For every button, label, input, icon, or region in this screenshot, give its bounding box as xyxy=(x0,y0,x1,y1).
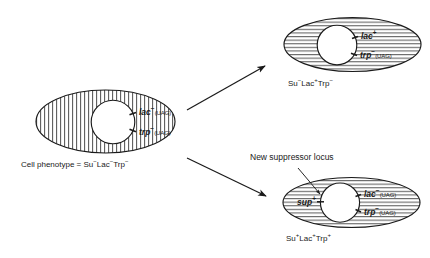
suppressor-gene-sup: sup+ xyxy=(297,196,316,206)
arrow-to-suppressor xyxy=(187,158,266,196)
revertant-phenotype-trp-sign: − xyxy=(329,77,333,83)
suppressor-gene-lac-note: (UAG) xyxy=(380,192,397,198)
parent-phenotype-lac: Lac xyxy=(97,160,110,169)
suppressor-phenotype-trp: Trp xyxy=(316,234,328,243)
revertant-gene-trp-name: trp xyxy=(360,50,371,60)
suppressor-phenotype-trp-sign: + xyxy=(327,232,331,238)
revertant-gene-lac-name: lac xyxy=(361,31,373,41)
revertant-phenotype-lac: Lac xyxy=(301,79,314,88)
parent-phenotype-trp: Trp xyxy=(113,160,125,169)
parent-phenotype-trp-sign: − xyxy=(125,158,129,164)
suppressor-gene-sup-name: sup xyxy=(297,197,312,207)
arrow-to-revertant xyxy=(187,66,265,110)
parent-cell-nucleus xyxy=(91,100,135,144)
revertant-cell-group xyxy=(284,18,421,72)
genetics-diagram: lac−(UAG) trp−(UAG) Cell phenotype = Su−… xyxy=(0,0,430,258)
parent-gene-lac: lac−(UAG) xyxy=(139,106,171,116)
revertant-phenotype-su: Su xyxy=(288,79,298,88)
parent-gene-lac-note: (UAG) xyxy=(155,110,172,116)
revertant-cell-nucleus xyxy=(317,25,357,65)
parent-gene-lac-name: lac xyxy=(139,107,151,117)
suppressor-phenotype-su: Su xyxy=(286,234,296,243)
revertant-cell-caption: Su−Lac+Trp− xyxy=(288,77,333,88)
parent-caption-prefix: Cell phenotype = xyxy=(21,160,84,169)
revertant-gene-lac-sign: + xyxy=(373,29,377,36)
parent-cell-caption: Cell phenotype = Su−Lac−Trp− xyxy=(21,158,128,169)
revertant-gene-trp: trp−(UAG) xyxy=(360,49,392,59)
suppressor-gene-trp: trp−(UAG) xyxy=(364,206,396,216)
parent-gene-trp-name: trp xyxy=(139,127,150,137)
suppressor-cell-nucleus xyxy=(320,183,359,222)
revertant-gene-trp-note: (UAG) xyxy=(375,53,392,59)
suppressor-gene-lac-name: lac xyxy=(364,189,376,199)
parent-gene-trp: trp−(UAG) xyxy=(139,126,171,136)
new-suppressor-locus-annotation: New suppressor locus xyxy=(250,153,334,162)
parent-cell-group xyxy=(36,90,175,153)
suppressor-gene-trp-name: trp xyxy=(364,207,375,217)
parent-phenotype-su: Su xyxy=(84,160,94,169)
parent-gene-trp-note: (UAG) xyxy=(154,130,171,136)
suppressor-gene-trp-note: (UAG) xyxy=(379,210,396,216)
suppressor-gene-lac: lac−(UAG) xyxy=(364,188,396,198)
suppressor-cell-caption: Su+Lac+Trp+ xyxy=(286,232,331,243)
suppressor-gene-sup-sign: + xyxy=(312,195,316,202)
suppressor-phenotype-lac: Lac xyxy=(299,234,312,243)
revertant-phenotype-trp: Trp xyxy=(318,79,330,88)
revertant-gene-lac: lac+ xyxy=(361,30,377,40)
